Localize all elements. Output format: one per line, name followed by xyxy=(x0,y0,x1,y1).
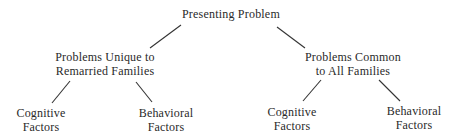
node-unique-cognitive: Cognitive Factors xyxy=(15,106,67,134)
node-label-line: Factors xyxy=(15,120,67,134)
edge-common-to-cognitive xyxy=(303,80,321,101)
node-label-line: Problems Unique to xyxy=(50,50,160,64)
node-label-line: Factors xyxy=(386,118,442,132)
edge-common-to-behavioral xyxy=(379,80,400,101)
node-problems-unique: Problems Unique to Remarried Families xyxy=(50,50,160,78)
node-problems-common: Problems Common to All Families xyxy=(303,50,403,78)
node-common-behavioral: Behavioral Factors xyxy=(386,104,442,132)
node-label: Presenting Problem xyxy=(182,7,280,21)
node-common-cognitive: Cognitive Factors xyxy=(266,105,318,133)
node-label-line: Factors xyxy=(138,120,194,134)
node-label-line: Cognitive xyxy=(15,106,67,120)
node-presenting-problem: Presenting Problem xyxy=(182,7,278,21)
node-label-line: Cognitive xyxy=(266,105,318,119)
edge-root-to-common xyxy=(277,27,305,48)
node-label-line: Factors xyxy=(266,119,318,133)
edge-unique-to-cognitive xyxy=(52,81,70,103)
node-label-line: Behavioral xyxy=(386,104,442,118)
node-label-line: to All Families xyxy=(303,64,403,78)
node-unique-behavioral: Behavioral Factors xyxy=(138,106,194,134)
node-label-line: Behavioral xyxy=(138,106,194,120)
node-label-line: Remarried Families xyxy=(50,64,160,78)
node-label-line: Problems Common xyxy=(303,50,403,64)
edge-unique-to-behavioral xyxy=(136,82,152,102)
edge-root-to-unique xyxy=(150,25,181,48)
